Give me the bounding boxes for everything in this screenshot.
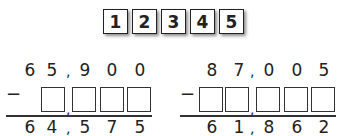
tile-1[interactable]: 1 — [103, 9, 128, 34]
answer-box[interactable] — [127, 87, 151, 112]
result-digit: 6 — [287, 117, 307, 136]
tile-2[interactable]: 2 — [132, 9, 157, 34]
tile-4[interactable]: 4 — [190, 9, 215, 34]
result-digit: 4 — [42, 117, 62, 136]
tile-5[interactable]: 5 — [219, 9, 244, 34]
result-digit: 6 — [20, 117, 40, 136]
top-digit: 0 — [287, 60, 307, 80]
answer-box[interactable] — [225, 87, 249, 112]
top-digit: 9 — [75, 60, 95, 80]
comma: , — [66, 63, 70, 79]
top-digit: 8 — [202, 60, 222, 80]
result-digit: 5 — [130, 117, 150, 136]
result-digit: 1 — [229, 117, 249, 136]
comma: , — [250, 63, 254, 79]
top-digit: 5 — [42, 60, 62, 80]
top-digit: 7 — [229, 60, 249, 80]
number-tiles: 1 2 3 4 5 — [103, 9, 246, 34]
top-digit: 6 — [20, 60, 40, 80]
result-digit: 7 — [102, 117, 122, 136]
tile-3[interactable]: 3 — [161, 9, 186, 34]
comma: , — [250, 120, 254, 136]
comma: , — [66, 120, 70, 136]
top-digit: 0 — [102, 60, 122, 80]
answer-box[interactable] — [284, 87, 308, 112]
answer-box[interactable] — [199, 87, 223, 112]
result-digit: 2 — [314, 117, 334, 136]
problem-2: 8 7 , 0 0 5 − , 6 1 , 8 6 2 — [175, 55, 335, 135]
minus-sign: − — [6, 83, 21, 104]
answer-box[interactable] — [256, 87, 280, 112]
result-digit: 8 — [259, 117, 279, 136]
result-digit: 6 — [202, 117, 222, 136]
answer-box[interactable] — [41, 87, 65, 112]
top-digit: 5 — [314, 60, 334, 80]
result-digit: 5 — [75, 117, 95, 136]
top-digit: 0 — [259, 60, 279, 80]
answer-box[interactable] — [72, 87, 96, 112]
answer-box[interactable] — [100, 87, 124, 112]
problem-1: 6 5 , 9 0 0 − , 6 4 , 5 7 5 — [0, 55, 160, 135]
top-digit: 0 — [130, 60, 150, 80]
answer-box[interactable] — [311, 87, 335, 112]
minus-sign: − — [180, 83, 195, 104]
